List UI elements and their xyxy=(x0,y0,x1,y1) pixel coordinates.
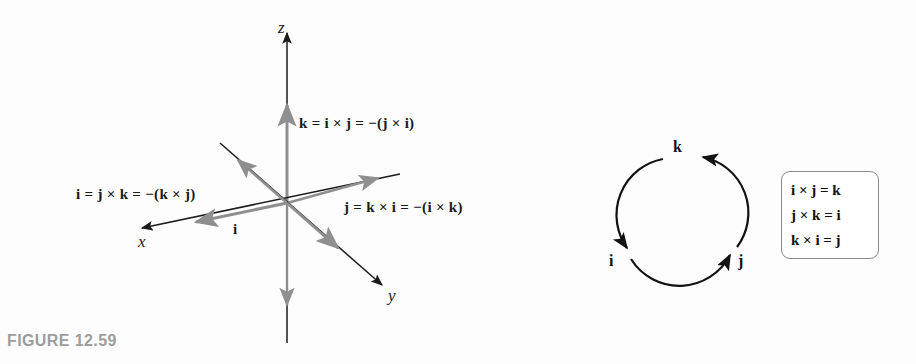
identity-line-3: k × i = j xyxy=(791,228,878,253)
axis-label-z: z xyxy=(278,18,285,38)
cycle-node-i: i xyxy=(609,252,613,270)
i-vector-arrow xyxy=(196,203,287,222)
arc-k-to-i xyxy=(616,159,663,248)
cycle-node-k: k xyxy=(673,138,682,156)
cycle-node-j: j xyxy=(738,252,743,270)
negative-y-gray-segment xyxy=(238,160,287,203)
figure-container: x y z i k = i × j = −(j × i) i = j × k =… xyxy=(0,0,916,364)
identity-line-2: j × k = i xyxy=(791,203,878,228)
figure-graphics xyxy=(0,0,916,364)
equation-j: j = k × i = −(i × k) xyxy=(344,199,463,216)
j-vector-arrow xyxy=(287,203,338,248)
figure-caption: FIGURE 12.59 xyxy=(7,332,117,350)
vector-label-i: i xyxy=(233,221,237,238)
arc-i-to-j xyxy=(631,255,730,286)
arc-j-to-k xyxy=(703,157,748,247)
identity-box: i × j = k j × k = i k × i = j xyxy=(781,171,879,259)
axis-label-x: x xyxy=(138,232,146,252)
identity-line-1: i × j = k xyxy=(791,178,878,203)
equation-i: i = j × k = −(k × j) xyxy=(76,186,196,203)
axis-label-y: y xyxy=(388,286,396,306)
equation-k: k = i × j = −(j × i) xyxy=(299,115,414,132)
